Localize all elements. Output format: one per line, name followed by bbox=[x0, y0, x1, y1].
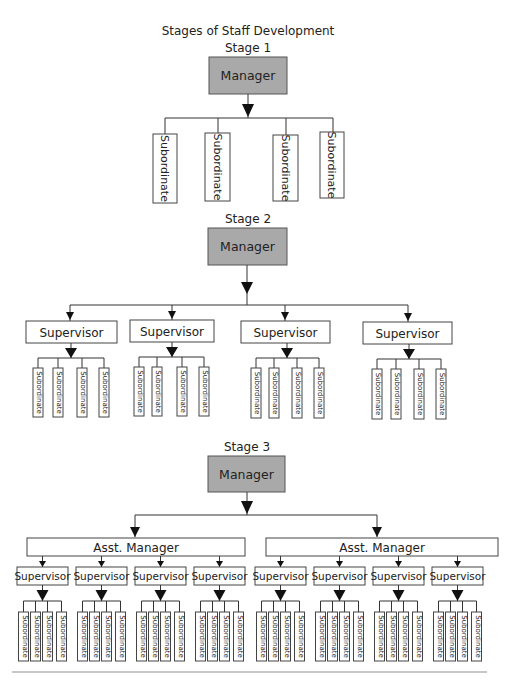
stage-1: Stage 1 Manager Subordinate Subordinate … bbox=[153, 41, 344, 203]
svg-text:Subordinate: Subordinate bbox=[438, 373, 446, 416]
subordinate-label: Subordinate bbox=[325, 132, 338, 199]
svg-text:Subordinate: Subordinate bbox=[101, 371, 109, 414]
svg-text:Subordinate: Subordinate bbox=[154, 370, 162, 413]
stage-1-subordinate-box: Subordinate bbox=[153, 134, 177, 203]
supervisor-label: Supervisor bbox=[370, 570, 427, 582]
subordinate-label: Subordinate bbox=[283, 615, 291, 658]
svg-text:Subordinate: Subordinate bbox=[374, 373, 382, 416]
stage-2-manager-label: Manager bbox=[220, 239, 276, 254]
diagram-title: Stages of Staff Development bbox=[162, 24, 335, 38]
subordinate-label: Subordinate bbox=[210, 615, 218, 658]
stage-3-supervisor-group: SupervisorSubordinateSubordinateSubordin… bbox=[132, 556, 189, 661]
stage-1-subordinate-box: Subordinate bbox=[205, 133, 230, 201]
stage-3-supervisor-group: SupervisorSubordinateSubordinateSubordin… bbox=[370, 556, 427, 661]
stage-3-supervisor-group: SupervisorSubordinateSubordinateSubordin… bbox=[73, 556, 130, 661]
stage-2-supervisor-group: Supervisor Subordinate Subordinate Subor… bbox=[130, 305, 214, 416]
stage-1-manager-label: Manager bbox=[221, 68, 277, 83]
svg-text:Subordinate: Subordinate bbox=[79, 371, 87, 414]
subordinate-label: Subordinate bbox=[163, 615, 171, 658]
subordinate-label: Subordinate bbox=[297, 615, 305, 658]
svg-text:Subordinate: Subordinate bbox=[253, 372, 261, 415]
stage-3-manager-label: Manager bbox=[219, 467, 275, 482]
arrow-down-icon bbox=[242, 104, 254, 117]
supervisor-label: Supervisor bbox=[252, 570, 309, 582]
stage-3-supervisor-group: SupervisorSubordinateSubordinateSubordin… bbox=[311, 556, 368, 661]
subordinate-label: Subordinate bbox=[222, 615, 230, 658]
subordinate-label: Subordinate bbox=[279, 135, 292, 202]
asst-manager-label: Asst. Manager bbox=[339, 541, 425, 555]
subordinate-label: Subordinate bbox=[271, 615, 279, 658]
supervisor-label: Supervisor bbox=[14, 570, 71, 582]
subordinate-label: Subordinate bbox=[474, 615, 482, 658]
subordinate-label: Subordinate bbox=[139, 615, 147, 658]
supervisor-label: Supervisor bbox=[253, 326, 317, 340]
supervisor-label: Supervisor bbox=[375, 327, 439, 341]
subordinate-label: Subordinate bbox=[198, 615, 206, 658]
subordinate-label: Subordinate bbox=[377, 615, 385, 658]
subordinate-label: Subordinate bbox=[21, 615, 29, 658]
stage-2-supervisor-group: Supervisor Subordinate Subordinate Subor… bbox=[26, 305, 117, 417]
stage-3-supervisor-group: SupervisorSubordinateSubordinateSubordin… bbox=[14, 556, 71, 661]
subordinate-label: Subordinate bbox=[342, 615, 350, 658]
subordinate-label: Subordinate bbox=[45, 615, 53, 658]
svg-text:Subordinate: Subordinate bbox=[55, 371, 63, 414]
supervisor-label: Supervisor bbox=[39, 326, 103, 340]
svg-text:Subordinate: Subordinate bbox=[393, 373, 401, 416]
stage-2-manager-box: Manager bbox=[208, 228, 287, 265]
subordinate-label: Subordinate bbox=[259, 615, 267, 658]
supervisor-label: Supervisor bbox=[73, 570, 130, 582]
subordinate-label: Subordinate bbox=[460, 615, 468, 658]
svg-text:Subordinate: Subordinate bbox=[179, 370, 187, 413]
supervisor-label: Supervisor bbox=[132, 570, 189, 582]
supervisor-label: Supervisor bbox=[429, 570, 486, 582]
stage-3-supervisor-group: SupervisorSubordinateSubordinateSubordin… bbox=[191, 556, 248, 661]
subordinate-label: Subordinate bbox=[356, 615, 364, 658]
subordinate-label: Subordinate bbox=[389, 615, 397, 658]
svg-text:Subordinate: Subordinate bbox=[35, 371, 43, 414]
subordinate-label: Subordinate bbox=[211, 134, 224, 201]
stage-1-label: Stage 1 bbox=[225, 41, 271, 55]
stage-3-label: Stage 3 bbox=[224, 440, 270, 454]
subordinate-label: Subordinate bbox=[92, 615, 100, 658]
org-chart-canvas: Stages of Staff Development Stage 1 Mana… bbox=[0, 0, 505, 684]
svg-text:Subordinate: Subordinate bbox=[271, 372, 279, 415]
stage-2-supervisor-group: Supervisor Subordinate Subordinate Subor… bbox=[363, 305, 452, 419]
subordinate-label: Subordinate bbox=[415, 615, 423, 658]
svg-text:Subordinate: Subordinate bbox=[316, 372, 324, 415]
subordinate-label: Subordinate bbox=[236, 615, 244, 658]
subordinate-label: Subordinate bbox=[448, 615, 456, 658]
subordinate-label: Subordinate bbox=[118, 615, 126, 658]
stage-2: Stage 2 Manager Supervisor Subordinate S… bbox=[26, 212, 452, 419]
subordinate-label: Subordinate bbox=[151, 615, 159, 658]
asst-manager-box: Asst. Manager bbox=[266, 538, 498, 556]
asst-manager-box: Asst. Manager bbox=[27, 538, 245, 556]
stage-2-supervisor-group: Supervisor Subordinate Subordinate Subor… bbox=[241, 305, 330, 418]
subordinate-label: Subordinate bbox=[59, 615, 67, 658]
stage-3-supervisor-group: SupervisorSubordinateSubordinateSubordin… bbox=[429, 556, 486, 661]
subordinate-label: Subordinate bbox=[104, 615, 112, 658]
subordinate-label: Subordinate bbox=[177, 615, 185, 658]
stage-1-manager-box: Manager bbox=[209, 57, 287, 94]
asst-manager-label: Asst. Manager bbox=[93, 541, 179, 555]
subordinate-label: Subordinate bbox=[330, 615, 338, 658]
stage-3-manager-box: Manager bbox=[208, 456, 285, 492]
svg-text:Subordinate: Subordinate bbox=[136, 370, 144, 413]
subordinate-label: Subordinate bbox=[158, 135, 171, 202]
svg-text:Subordinate: Subordinate bbox=[416, 373, 424, 416]
supervisor-label: Supervisor bbox=[191, 570, 248, 582]
stage-1-subordinate-box: Subordinate bbox=[320, 132, 344, 199]
subordinate-label: Subordinate bbox=[33, 615, 41, 658]
supervisor-label: Supervisor bbox=[140, 325, 204, 339]
subordinate-label: Subordinate bbox=[80, 615, 88, 658]
stage-3: Stage 3 Manager Asst. Manager Asst. Mana… bbox=[14, 440, 498, 661]
stage-2-label: Stage 2 bbox=[225, 212, 271, 226]
stage-3-supervisor-group: SupervisorSubordinateSubordinateSubordin… bbox=[252, 556, 309, 661]
arrow-down-icon bbox=[241, 501, 253, 514]
supervisor-label: Supervisor bbox=[311, 570, 368, 582]
arrow-down-icon bbox=[241, 282, 253, 294]
stage-1-subordinate-box: Subordinate bbox=[273, 135, 298, 202]
subordinate-label: Subordinate bbox=[436, 615, 444, 658]
svg-text:Subordinate: Subordinate bbox=[201, 370, 209, 413]
subordinate-label: Subordinate bbox=[401, 615, 409, 658]
svg-text:Subordinate: Subordinate bbox=[294, 372, 302, 415]
